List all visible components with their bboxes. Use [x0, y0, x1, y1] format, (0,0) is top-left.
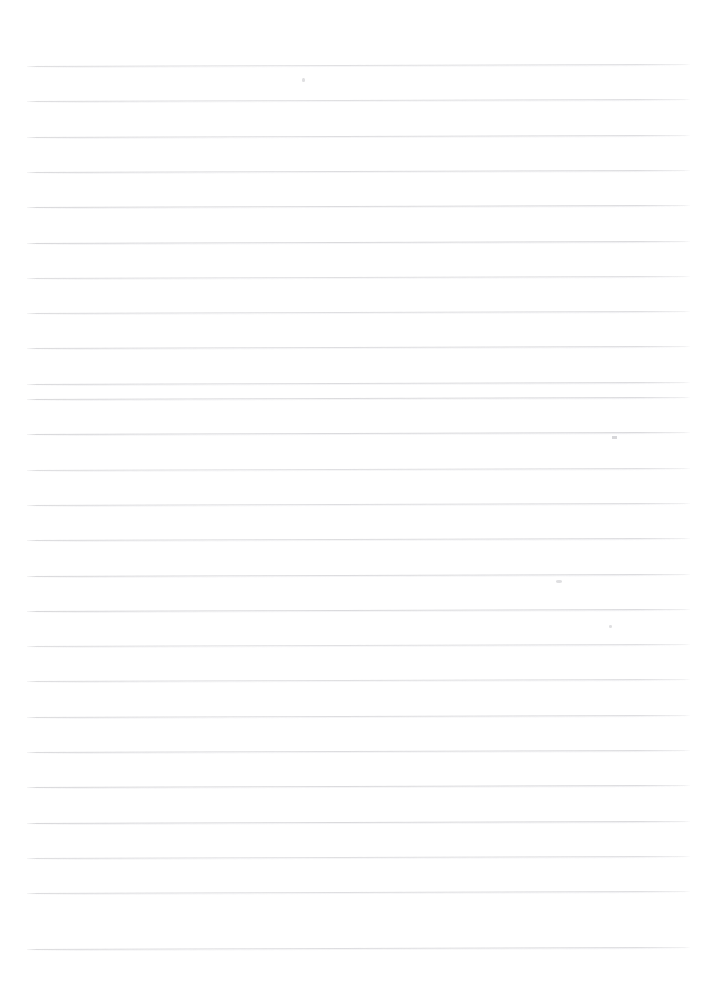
scanned-page: [0, 0, 716, 1007]
page-text-content: [27, 66, 690, 949]
